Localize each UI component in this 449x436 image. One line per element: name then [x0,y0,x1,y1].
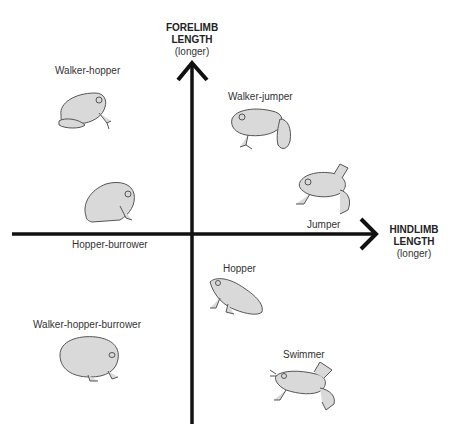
frog-walker-jumper-icon [228,105,300,155]
x-axis-label: HINDLIMB LENGTH (longer) [380,224,448,260]
x-axis-title-2: LENGTH [380,236,448,248]
label-jumper: Jumper [307,219,340,230]
y-axis-note: (longer) [152,46,232,58]
frog-walker-hopper-burrower-icon [54,333,124,383]
label-hopper-burrower: Hopper-burrower [72,239,148,250]
label-hopper: Hopper [223,263,256,274]
y-axis-title-2: LENGTH [152,34,232,46]
frog-hopper-burrower-icon [80,176,140,230]
frog-hopper-icon [206,274,268,318]
label-walker-hopper-burrower: Walker-hopper-burrower [33,319,141,330]
frog-swimmer-icon [270,362,342,414]
y-axis-title-1: FORELIMB [152,22,232,34]
frog-walker-hopper-icon [55,85,115,135]
label-walker-hopper: Walker-hopper [55,65,120,76]
y-axis-label: FORELIMB LENGTH (longer) [152,22,232,58]
label-swimmer: Swimmer [283,349,325,360]
label-walker-jumper: Walker-jumper [228,91,293,102]
frog-jumper-icon [294,160,358,216]
x-axis-title-1: HINDLIMB [380,224,448,236]
x-axis-note: (longer) [380,248,448,260]
